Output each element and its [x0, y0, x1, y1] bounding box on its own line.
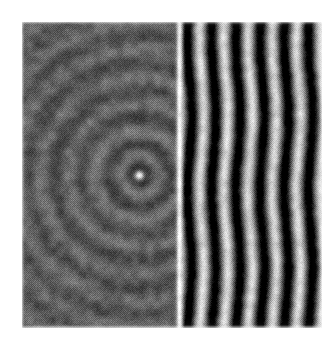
figure-alt-text: Grayscale photographic plate showing con… [0, 0, 1, 1]
figure-root: Grayscale photographic plate showing con… [0, 0, 334, 340]
interference-plate [22, 22, 322, 328]
figure-title: Optical interference pattern [0, 0, 1, 1]
interference-pattern-image [22, 22, 322, 328]
